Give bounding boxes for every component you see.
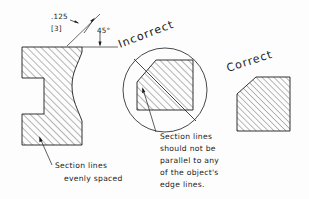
dimension-leader-arrowhead	[74, 20, 79, 23]
incorrect-block-hatching	[130, 55, 200, 115]
drawing-svg: .125 [3] 45° Section lines evenly spaced…	[0, 0, 309, 199]
incorrect-label: Incorrect	[116, 18, 175, 51]
correct-label: Correct	[225, 48, 275, 75]
chamfer-angle-line	[67, 14, 100, 46]
dimension-value-inch: .125	[51, 12, 68, 21]
center-note-line-3: parallel to any	[160, 156, 219, 165]
center-note-line-4: of the object's	[160, 168, 219, 177]
center-note-line-5: edge lines.	[160, 180, 205, 189]
dimension-angle-value: 45°	[97, 26, 110, 35]
left-part-hatching	[15, 40, 95, 155]
left-note-line-2: evenly spaced	[64, 174, 123, 183]
chamfer-dimension-group: .125 [3] 45°	[51, 12, 118, 47]
technical-drawing-canvas: .125 [3] 45° Section lines evenly spaced…	[0, 0, 309, 199]
center-note-line-1: Section lines	[160, 132, 212, 141]
center-note-line-2: should not be	[160, 144, 216, 153]
left-note-line-1: Section lines	[55, 161, 107, 170]
incorrect-example-group: Incorrect	[116, 18, 207, 132]
correct-block-hatching	[232, 72, 296, 136]
correct-example-group: Correct	[225, 48, 296, 136]
angle-arrow-lower-head	[98, 42, 101, 47]
dimension-value-metric: [3]	[51, 24, 62, 33]
left-sectioned-part	[15, 40, 95, 155]
